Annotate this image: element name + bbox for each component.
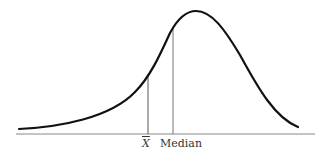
distribution-curve [19, 11, 298, 129]
diagram-canvas [0, 0, 330, 154]
median-label: Median [160, 138, 202, 149]
skewed-distribution-diagram: X Median [0, 0, 330, 154]
mean-label: X [142, 138, 150, 149]
